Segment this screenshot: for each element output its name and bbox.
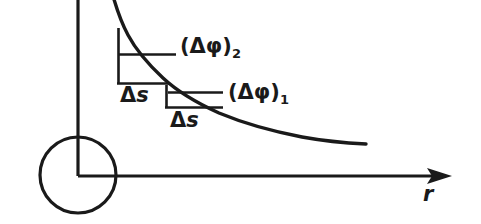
label-delta-phi-1-text: (Δφ) (228, 80, 280, 104)
label-delta-s-lower: Δs (170, 110, 199, 131)
label-delta-s-lower-delta: Δ (170, 108, 186, 132)
label-delta-phi-2-subscript: 2 (232, 46, 241, 61)
label-delta-phi-1: (Δφ)1 (228, 82, 289, 106)
label-delta-phi-2-text: (Δφ) (180, 34, 232, 58)
potential-curve-diagram (0, 0, 481, 224)
potential-curve-path (113, 0, 366, 144)
label-delta-s-upper-delta: Δ (120, 83, 136, 107)
label-delta-s-upper: Δs (120, 85, 149, 106)
figure-container: (Δφ)2 (Δφ)1 Δs Δs r (0, 0, 481, 224)
label-delta-phi-1-subscript: 1 (280, 92, 289, 107)
label-delta-s-upper-s: s (136, 83, 149, 107)
label-delta-phi-2: (Δφ)2 (180, 36, 241, 60)
label-axis-r: r (423, 184, 433, 205)
label-delta-s-lower-s: s (186, 108, 199, 132)
